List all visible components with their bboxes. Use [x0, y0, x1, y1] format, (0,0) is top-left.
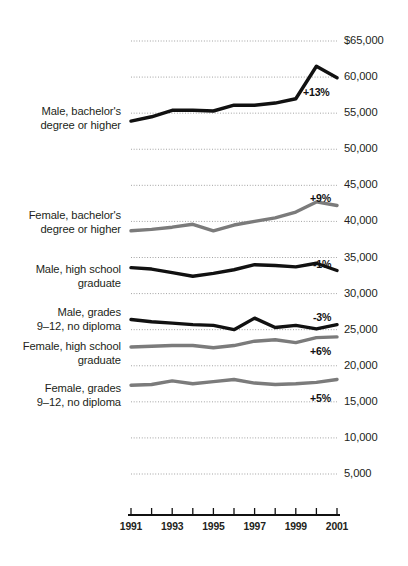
series-label-male-bachelors: Male, bachelor's degree or higher: [1, 105, 121, 132]
y-axis-tick-label-35000: 35,000: [344, 251, 378, 263]
income-by-education-line-chart: $65,00060,00055,00050,00045,00040,00035,…: [0, 0, 408, 566]
y-axis-tick-label-65000: $65,000: [344, 34, 384, 46]
y-axis-tick-label-5000: 5,000: [344, 467, 372, 479]
x-axis-tick-label-1991: 1991: [113, 521, 149, 532]
y-axis-tick-label-50000: 50,000: [344, 142, 378, 154]
series-label-female-grades-9-12: Female, grades 9–12, no diploma: [1, 382, 121, 409]
change-annotation-female-high-school: +6%: [310, 345, 331, 357]
change-annotation-male-grades-9-12: -3%: [313, 311, 331, 323]
x-axis-tick-label-1995: 1995: [195, 521, 231, 532]
y-axis-tick-label-15000: 15,000: [344, 395, 378, 407]
change-annotation-male-bachelors: +13%: [303, 86, 330, 98]
x-axis-tick-label-2001: 2001: [319, 521, 355, 532]
y-axis-tick-label-40000: 40,000: [344, 214, 378, 226]
series-label-male-grades-9-12: Male, grades 9–12, no diploma: [1, 306, 121, 333]
series-line-3: [131, 318, 337, 330]
series-line-4: [131, 337, 337, 348]
y-axis-tick-label-20000: 20,000: [344, 359, 378, 371]
y-axis-tick-label-60000: 60,000: [344, 70, 378, 82]
series-line-2: [131, 263, 337, 276]
series-label-female-high-school: Female, high school graduate: [0, 340, 121, 367]
y-axis-tick-label-10000: 10,000: [344, 431, 378, 443]
series-line-1: [131, 202, 337, 231]
x-axis-tick-label-1999: 1999: [278, 521, 314, 532]
y-axis-tick-label-45000: 45,000: [344, 178, 378, 190]
x-axis-tick-label-1993: 1993: [154, 521, 190, 532]
x-axis-group: [128, 508, 340, 515]
change-annotation-female-grades-9-12: +5%: [310, 392, 331, 404]
x-axis-tick-label-1997: 1997: [237, 521, 273, 532]
y-axis-tick-label-25000: 25,000: [344, 323, 378, 335]
series-lines-group: [131, 66, 337, 385]
y-axis-tick-label-55000: 55,000: [344, 106, 378, 118]
series-label-female-bachelors: Female, bachelor's degree or higher: [1, 209, 121, 236]
change-annotation-male-high-school: -1%: [313, 258, 331, 270]
series-label-male-high-school: Male, high school graduate: [1, 263, 121, 290]
change-annotation-female-bachelors: +9%: [310, 192, 331, 204]
series-line-5: [131, 379, 337, 385]
y-axis-tick-label-30000: 30,000: [344, 287, 378, 299]
